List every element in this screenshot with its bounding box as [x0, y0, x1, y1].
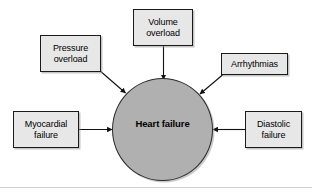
node-arrhythmias[interactable]: Arrhythmias: [221, 53, 288, 75]
node-pressure-overload-label: Pressure overload: [53, 43, 88, 64]
node-volume-overload-label: Volume overload: [146, 17, 180, 38]
node-diastolic-failure[interactable]: Diastolic failure: [245, 111, 302, 148]
heart-failure-diagram: Volume overload Pressure overload Arrhyt…: [0, 0, 312, 194]
node-diastolic-failure-label: Diastolic failure: [257, 119, 290, 140]
heart-failure-circle-label: Heart failure: [112, 118, 213, 129]
bottom-divider: [0, 187, 312, 188]
node-volume-overload[interactable]: Volume overload: [133, 9, 193, 46]
node-myocardial-failure-label: Myocardial failure: [25, 119, 68, 140]
node-myocardial-failure[interactable]: Myocardial failure: [13, 111, 79, 148]
node-arrhythmias-label: Arrhythmias: [231, 59, 278, 70]
heart-failure-circle[interactable]: [112, 78, 213, 181]
node-pressure-overload[interactable]: Pressure overload: [40, 35, 101, 72]
arrow-arrhythmias-to-center: [200, 72, 226, 94]
arrow-pressure-overload-to-center: [99, 70, 126, 93]
